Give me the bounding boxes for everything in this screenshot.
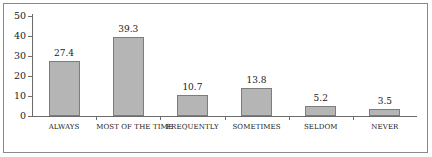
y-axis-tick — [28, 56, 32, 57]
bar — [369, 109, 400, 116]
y-axis-tick-label: 0 — [0, 111, 26, 121]
y-axis-tick — [28, 116, 32, 117]
y-axis-tick — [28, 76, 32, 77]
x-axis-tick — [160, 116, 161, 120]
y-axis-tick — [28, 16, 32, 17]
bar-value-label: 13.8 — [237, 76, 277, 85]
y-axis-tick-label-text: 10 — [2, 91, 26, 101]
x-axis-category-label: ALWAYS — [32, 124, 96, 131]
y-axis-tick-label: 10 — [0, 91, 26, 101]
y-axis-tick — [28, 36, 32, 37]
bar-value-label: 3.5 — [365, 97, 405, 106]
y-axis-tick — [28, 96, 32, 97]
y-axis-tick-label-text: 0 — [2, 111, 26, 121]
x-axis-tick — [353, 116, 354, 120]
bar — [177, 95, 208, 116]
y-axis-tick-label: 30 — [0, 51, 26, 61]
y-axis-tick-label-text: 40 — [2, 31, 26, 41]
bar — [113, 37, 144, 116]
y-axis-tick-label-text: 30 — [2, 51, 26, 61]
x-axis-tick — [225, 116, 226, 120]
bar-value-label: 10.7 — [172, 83, 212, 92]
x-axis-category-label: SOMETIMES — [225, 124, 289, 131]
bar-value-label: 5.2 — [301, 94, 341, 103]
bar-chart: 01020304050 27.439.310.713.85.23.5 ALWAY… — [0, 0, 432, 157]
y-axis-tick-label: 40 — [0, 31, 26, 41]
bar — [241, 88, 272, 116]
x-axis-category-label: FREQUENTLY — [160, 124, 224, 131]
bar-value-label: 27.4 — [44, 49, 84, 58]
y-axis-tick-label: 50 — [0, 11, 26, 21]
y-axis-tick-label: 20 — [0, 71, 26, 81]
x-axis-category-label: MOST OF THE TIME — [96, 124, 160, 131]
x-axis-category-label: SELDOM — [289, 124, 353, 131]
x-axis-tick — [289, 116, 290, 120]
bar — [305, 106, 336, 116]
bar-value-label: 39.3 — [108, 25, 148, 34]
bar — [49, 61, 80, 116]
x-axis-tick — [96, 116, 97, 120]
y-axis-tick-label-text: 20 — [2, 71, 26, 81]
y-axis-line — [32, 14, 33, 117]
x-axis-category-label: NEVER — [353, 124, 417, 131]
y-axis-tick-label-text: 50 — [2, 11, 26, 21]
